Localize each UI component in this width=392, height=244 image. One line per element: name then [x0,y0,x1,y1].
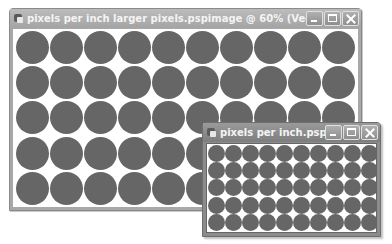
close-button[interactable] [361,125,378,140]
circle-shape [220,65,254,100]
window-controls [306,11,359,26]
circle-shape [344,179,361,196]
circle-shape [208,145,225,162]
circle-shape [117,136,151,171]
document-icon[interactable] [13,13,24,24]
small-image-window[interactable]: pixels per inch.pspim... [202,122,381,237]
circle-shape [225,197,242,214]
circle-shape [117,65,151,100]
maximize-button[interactable] [324,11,341,26]
circle-shape [259,145,276,162]
circle-shape [225,179,242,196]
circle-shape [361,197,377,214]
circle-shape [293,145,310,162]
circle-shape [242,214,259,231]
circle-shape [15,100,49,135]
circle-shape [293,214,310,231]
circle-shape [327,214,344,231]
circle-shape [288,65,322,100]
circle-shape [361,145,377,162]
circle-shape [242,179,259,196]
circle-shape [117,30,151,65]
circle-shape [293,179,310,196]
circle-shape [185,65,219,100]
circle-shape [225,145,242,162]
circle-shape [15,171,49,206]
circle-shape [117,100,151,135]
circle-shape [242,162,259,179]
circle-shape [49,171,83,206]
circle-shape [83,171,117,206]
circle-shape [259,179,276,196]
circle-shape [151,171,185,206]
small-image-canvas[interactable] [206,143,377,233]
circle-shape [242,197,259,214]
circle-shape [117,171,151,206]
circle-shape [344,214,361,231]
circle-shape [288,30,322,65]
small-window-title: pixels per inch.pspim... [220,127,325,138]
circle-shape [310,179,327,196]
circle-shape [49,30,83,65]
close-button[interactable] [342,11,359,26]
minimize-button[interactable] [325,125,342,140]
large-window-titlebar[interactable]: pixels per inch larger pixels.pspimage @… [10,9,361,28]
circle-shape [208,162,225,179]
window-controls [325,125,378,140]
circle-shape [322,30,356,65]
small-window-titlebar[interactable]: pixels per inch.pspim... [203,123,380,142]
circle-shape [259,214,276,231]
maximize-button[interactable] [343,125,360,140]
circle-shape [276,197,293,214]
circle-shape [293,162,310,179]
circle-shape [49,136,83,171]
circle-shape [83,100,117,135]
circle-shape [259,162,276,179]
minimize-button[interactable] [306,11,323,26]
circle-shape [15,136,49,171]
circle-shape [361,162,377,179]
circle-shape [361,214,377,231]
circle-shape [344,197,361,214]
circle-shape [49,100,83,135]
circle-shape [344,162,361,179]
circle-shape [327,197,344,214]
circle-shape [83,136,117,171]
circle-shape [322,65,356,100]
circle-shape [344,145,361,162]
circle-shape [151,100,185,135]
circle-shape [327,179,344,196]
circle-shape [49,65,83,100]
circle-shape [259,197,276,214]
circle-shape [310,197,327,214]
circle-shape [225,214,242,231]
circle-shape [293,197,310,214]
circle-shape [254,65,288,100]
circle-shape [225,162,242,179]
circle-shape [185,30,219,65]
circle-shape [208,179,225,196]
circle-shape [327,162,344,179]
circle-shape [208,197,225,214]
circle-shape [220,30,254,65]
circle-shape [242,145,259,162]
circle-shape [310,214,327,231]
circle-shape [151,65,185,100]
document-icon[interactable] [206,127,217,138]
circle-shape [83,65,117,100]
circle-shape [327,145,344,162]
circle-shape [276,214,293,231]
circle-shape [151,30,185,65]
circle-shape [276,179,293,196]
circle-shape [254,30,288,65]
circle-shape [151,136,185,171]
circle-shape [15,65,49,100]
circle-shape [276,145,293,162]
circle-shape [276,162,293,179]
circle-shape [361,179,377,196]
circle-shape [15,30,49,65]
circle-shape [310,145,327,162]
circle-shape [208,214,225,231]
circle-shape [83,30,117,65]
large-window-title: pixels per inch larger pixels.pspimage @… [27,13,306,24]
